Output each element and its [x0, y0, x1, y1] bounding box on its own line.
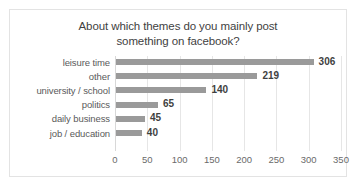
- bar-value-daily-business: 45: [150, 112, 161, 124]
- bar-job-education: [116, 130, 142, 136]
- bar-university-school: [116, 87, 206, 93]
- xtick-label-0: 0: [112, 153, 117, 167]
- category-label-daily-business: daily business: [52, 112, 110, 126]
- value-axis-tick-labels: 050100150200250300350: [115, 153, 341, 169]
- category-label-leisure-time: leisure time: [63, 56, 110, 70]
- xtick-label-300: 300: [301, 153, 317, 167]
- bar-daily-business: [116, 116, 145, 122]
- gridline-300: [309, 56, 310, 151]
- chart-title-line-2: something on facebook?: [10, 34, 346, 49]
- category-label-politics: politics: [82, 98, 110, 112]
- chart-container: About which themes do you mainly post so…: [9, 9, 347, 177]
- bar-politics: [116, 102, 158, 108]
- category-axis-labels: leisure time other university / school p…: [10, 56, 114, 151]
- gridline-200: [244, 56, 245, 151]
- category-label-job-education: job / education: [50, 127, 110, 141]
- bar-value-other: 219: [262, 70, 279, 82]
- xtick-label-250: 250: [268, 153, 284, 167]
- category-label-other: other: [89, 70, 110, 84]
- chart-title: About which themes do you mainly post so…: [10, 19, 346, 48]
- bar-value-politics: 65: [163, 98, 174, 110]
- xtick-label-350: 350: [333, 153, 349, 167]
- plot-area: leisure time other university / school p…: [10, 56, 348, 176]
- gridline-350: [341, 56, 342, 151]
- category-label-university-school: university / school: [36, 84, 110, 98]
- xtick-label-200: 200: [236, 153, 252, 167]
- xtick-label-100: 100: [172, 153, 188, 167]
- bar-other: [116, 73, 257, 79]
- bar-value-university-school: 140: [211, 84, 228, 96]
- xtick-label-50: 50: [142, 153, 153, 167]
- xtick-label-150: 150: [204, 153, 220, 167]
- gridline-100: [180, 56, 181, 151]
- chart-title-line-1: About which themes do you mainly post: [10, 19, 346, 34]
- bar-value-leisure-time: 306: [319, 56, 336, 68]
- bar-value-job-education: 40: [147, 127, 158, 139]
- gridline-150: [212, 56, 213, 151]
- bars-canvas: 306 219 140 65 45 40: [115, 56, 341, 151]
- bar-leisure-time: [116, 59, 314, 65]
